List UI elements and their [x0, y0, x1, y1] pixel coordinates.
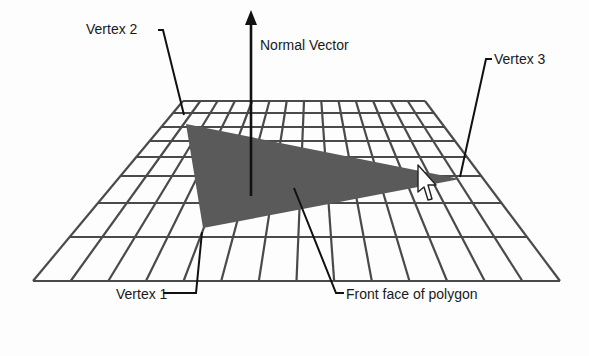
vertex1-leader — [163, 232, 202, 293]
vertex2-label: Vertex 2 — [86, 21, 137, 37]
normal-vector-arrowhead-icon — [245, 10, 257, 25]
vertex1-label: Vertex 1 — [116, 286, 167, 302]
normal-vector-label: Normal Vector — [260, 37, 349, 53]
vertex2-leader — [158, 30, 184, 115]
vertex3-leader — [460, 59, 492, 177]
vertex3-label: Vertex 3 — [494, 51, 545, 67]
front-face-label: Front face of polygon — [346, 286, 478, 302]
